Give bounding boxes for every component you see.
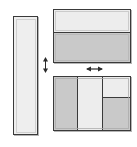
bottom-assembly-middle-column[interactable] <box>78 77 104 130</box>
bottom-assembly-right-column <box>103 77 130 130</box>
vertical-dimension-arrow-icon <box>42 57 49 73</box>
horizontal-dimension-arrow-icon <box>86 66 103 72</box>
top-assembly-panel[interactable] <box>53 9 131 63</box>
diagram-canvas <box>0 0 137 147</box>
left-vertical-panel[interactable] <box>13 16 38 135</box>
bottom-right-upper-segment[interactable] <box>103 77 130 98</box>
bottom-right-lower-segment[interactable] <box>103 98 130 130</box>
bottom-assembly-panel[interactable] <box>53 76 131 131</box>
top-lower-hairline <box>55 34 129 61</box>
top-assembly-upper-segment[interactable] <box>54 10 130 33</box>
top-assembly-lower-segment[interactable] <box>54 33 130 62</box>
top-upper-hairline <box>55 11 129 31</box>
bottom-assembly-left-column[interactable] <box>54 77 78 130</box>
left-panel-inner-face <box>16 19 36 133</box>
